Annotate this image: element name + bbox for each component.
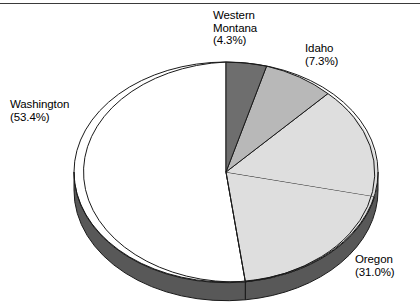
pie-label-oregon: Oregon (31.0%) xyxy=(355,253,395,278)
pie-label-western-montana: Western Montana (4.3%) xyxy=(213,9,257,47)
chart-canvas: Western Montana (4.3%) Idaho (7.3%) Wash… xyxy=(0,0,420,303)
pie-label-idaho: Idaho (7.3%) xyxy=(305,42,338,67)
pie-top-face xyxy=(74,62,378,282)
pie-label-washington: Washington (53.4%) xyxy=(10,98,69,123)
